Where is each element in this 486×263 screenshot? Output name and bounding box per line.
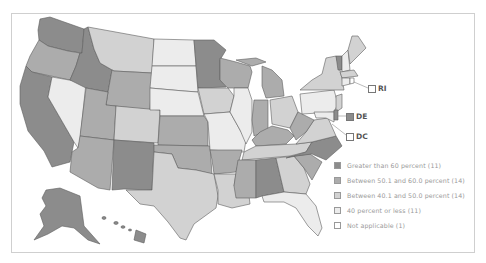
callout-de-label: DE — [356, 112, 367, 121]
ri-leader-line — [354, 82, 368, 88]
legend-label: Not applicable (1) — [347, 222, 405, 229]
legend-label: Between 40.1 and 50.0 percent (14) — [347, 192, 465, 199]
state-ri[interactable] — [350, 78, 354, 84]
legend-item-50-60: Between 50.1 and 60.0 percent (14) — [334, 173, 465, 187]
ri-swatch — [368, 85, 376, 93]
legend-swatch — [334, 177, 341, 184]
callout-ri: RI — [368, 84, 387, 93]
legend-swatch — [334, 162, 341, 169]
state-ct[interactable] — [342, 78, 350, 86]
state-ak[interactable] — [34, 188, 100, 244]
state-fl[interactable] — [262, 192, 322, 236]
legend-swatch — [334, 207, 341, 214]
legend-item-40-50: Between 40.1 and 50.0 percent (14) — [334, 188, 465, 202]
state-pa[interactable] — [300, 90, 338, 114]
state-ks[interactable] — [158, 116, 208, 146]
state-mi[interactable] — [262, 66, 284, 98]
map-legend: Greater than 60 percent (11) Between 50.… — [334, 158, 465, 233]
de-swatch — [346, 113, 354, 121]
callout-de: DE — [346, 112, 367, 121]
dc-swatch — [346, 133, 354, 141]
legend-item-na: Not applicable (1) — [334, 218, 465, 232]
state-me[interactable] — [348, 36, 366, 64]
state-sd[interactable] — [150, 66, 198, 92]
legend-swatch — [334, 222, 341, 229]
legend-item-le40: 40 percent or less (11) — [334, 203, 465, 217]
state-hi[interactable] — [102, 217, 146, 243]
legend-label: Greater than 60 percent (11) — [347, 162, 441, 169]
state-nm[interactable] — [112, 140, 154, 190]
state-nj[interactable] — [336, 94, 342, 112]
legend-label: 40 percent or less (11) — [347, 207, 421, 214]
state-wy[interactable] — [106, 70, 152, 110]
legend-item-gt60: Greater than 60 percent (11) — [334, 158, 465, 172]
state-ia[interactable] — [198, 88, 234, 114]
legend-swatch — [334, 192, 341, 199]
state-ms[interactable] — [234, 160, 256, 198]
state-nd[interactable] — [152, 39, 196, 66]
callout-dc-label: DC — [356, 132, 368, 141]
state-co[interactable] — [114, 106, 160, 143]
legend-label: Between 50.1 and 60.0 percent (14) — [347, 177, 465, 184]
state-de[interactable] — [334, 110, 338, 120]
callout-ri-label: RI — [378, 84, 387, 93]
callout-dc: DC — [346, 132, 368, 141]
